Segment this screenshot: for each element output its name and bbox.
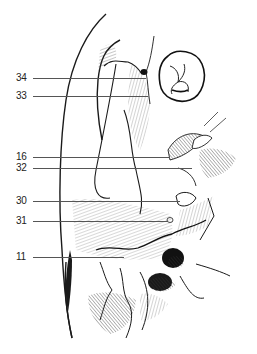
mandible-body-hatching bbox=[72, 199, 172, 259]
anatomical-illustration bbox=[0, 0, 257, 354]
leader-line-31 bbox=[33, 221, 168, 222]
label-34: 34 bbox=[16, 73, 27, 83]
leader-line-33 bbox=[33, 96, 148, 97]
label-30: 30 bbox=[16, 196, 27, 206]
leader-line-34 bbox=[33, 78, 146, 79]
external-ridge bbox=[66, 250, 72, 312]
label-11: 11 bbox=[16, 252, 26, 262]
lingual-structures bbox=[167, 112, 236, 240]
leader-line-32 bbox=[33, 168, 192, 169]
label-31: 31 bbox=[16, 216, 27, 226]
label-33: 33 bbox=[16, 91, 27, 101]
coronoid-hatching bbox=[98, 44, 116, 72]
label-16: 16 bbox=[16, 152, 27, 162]
leader-line-11 bbox=[33, 257, 124, 258]
leader-line-16 bbox=[33, 157, 170, 158]
lower-hatching-right bbox=[140, 293, 168, 320]
molar-crown bbox=[159, 51, 204, 101]
lower-hatching-left bbox=[88, 293, 136, 334]
label-32: 32 bbox=[16, 163, 27, 173]
leader-line-30 bbox=[33, 201, 180, 202]
